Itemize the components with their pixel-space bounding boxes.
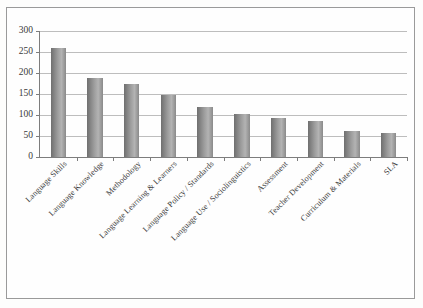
gridline bbox=[40, 52, 407, 53]
x-axis-category-label: Language Use / Sociolinguistics bbox=[170, 160, 253, 243]
bar[interactable] bbox=[161, 95, 176, 157]
x-axis-tick-mark bbox=[407, 157, 408, 161]
x-axis-category-label: Language Policy / Standards bbox=[142, 160, 216, 234]
y-axis-tick-mark bbox=[36, 115, 40, 116]
y-axis-tick-mark bbox=[36, 31, 40, 32]
y-axis-tick-label: 100 bbox=[19, 110, 33, 120]
y-axis-tick-mark bbox=[36, 94, 40, 95]
y-axis-tick-label: 200 bbox=[19, 68, 33, 78]
x-axis-category-label: Methodology bbox=[105, 160, 143, 198]
y-axis-tick-label: 0 bbox=[28, 152, 33, 162]
bar[interactable] bbox=[51, 48, 66, 157]
y-axis-tick-mark bbox=[36, 136, 40, 137]
y-axis-tick-mark bbox=[36, 52, 40, 53]
gridline bbox=[40, 73, 407, 74]
bar[interactable] bbox=[124, 84, 139, 158]
bar-chart-figure: 050100150200250300 Language SkillsLangua… bbox=[0, 0, 423, 308]
y-axis-tick-label: 250 bbox=[19, 47, 33, 57]
y-axis-tick-mark bbox=[36, 157, 40, 158]
y-axis-tick-mark bbox=[36, 73, 40, 74]
bar[interactable] bbox=[381, 133, 396, 157]
bar[interactable] bbox=[344, 131, 359, 157]
y-axis-tick-label: 300 bbox=[19, 26, 33, 36]
bar[interactable] bbox=[234, 114, 249, 157]
y-axis-tick-label: 150 bbox=[19, 89, 33, 99]
bar[interactable] bbox=[87, 78, 102, 157]
x-axis-category-label: Assessment bbox=[255, 160, 289, 194]
gridline bbox=[40, 31, 407, 32]
x-axis-category-label: SLA bbox=[382, 160, 399, 177]
bar[interactable] bbox=[271, 118, 286, 157]
bar[interactable] bbox=[308, 121, 323, 157]
bar[interactable] bbox=[197, 107, 212, 157]
y-axis-tick-label: 50 bbox=[24, 131, 34, 141]
plot-area: 050100150200250300 bbox=[39, 31, 407, 158]
x-axis-labels-group: Language SkillsLanguage KnowledgeMethodo… bbox=[39, 160, 407, 280]
